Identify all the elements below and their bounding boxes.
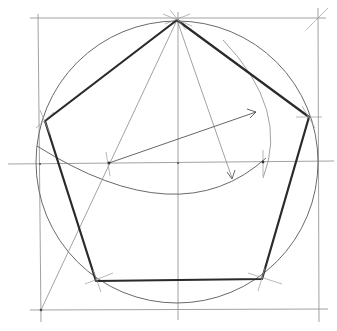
bottom-left-corner-point	[40, 309, 43, 312]
left-frame-line	[38, 14, 41, 322]
bottom-frame-line	[30, 309, 328, 310]
diagonal-top-to-bottom-left	[41, 20, 177, 310]
midpoint-arc	[37, 146, 266, 194]
line-top-to-arc	[177, 20, 232, 178]
radius-midpoint-point	[108, 162, 111, 165]
vertex-tick	[163, 14, 192, 26]
diagram-canvas	[0, 0, 337, 331]
construction-points	[39, 161, 265, 312]
construction-diagonals	[41, 20, 256, 310]
arc-intersection-point	[262, 161, 265, 164]
regular-pentagon	[45, 20, 309, 281]
top-vertex-arc	[223, 40, 271, 178]
left-axis-point	[39, 163, 41, 165]
construction-frame	[8, 8, 334, 322]
vertex-ticks	[36, 10, 322, 292]
circle-center-point	[177, 162, 179, 164]
circumscribed-circle	[36, 21, 318, 303]
corner-tick-mark	[306, 8, 328, 30]
radius-arrow-line	[109, 112, 256, 163]
vertex-tick	[85, 273, 113, 284]
